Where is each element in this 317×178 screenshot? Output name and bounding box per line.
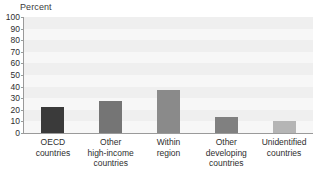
y-tick-label: 70	[11, 48, 20, 56]
bar	[215, 117, 238, 133]
y-tick-label: 40	[11, 83, 20, 91]
x-tick-label: Unidentified countries	[255, 137, 313, 158]
y-tick-label: 80	[11, 36, 20, 44]
y-tick-label: 30	[11, 94, 20, 102]
chart-title: Percent	[20, 2, 52, 13]
y-tick-label: 20	[11, 106, 20, 114]
bar	[273, 121, 296, 133]
gridline-band	[24, 17, 313, 29]
gridline-band	[24, 63, 313, 75]
y-tick-label: 60	[11, 59, 20, 67]
x-axis-line	[24, 133, 313, 134]
gridline-band	[24, 40, 313, 52]
y-tick-label: 100	[6, 13, 20, 21]
y-axis-line	[23, 17, 24, 134]
y-tick-label: 10	[11, 117, 20, 125]
bar	[99, 101, 122, 133]
bar	[41, 107, 64, 133]
x-tick-label: Within region	[140, 137, 198, 158]
x-tick-label: OECD countries	[24, 137, 82, 158]
y-axis: 0102030405060708090100	[0, 17, 22, 133]
x-tick-label: Other high-income countries	[82, 137, 140, 169]
x-tick-label: Other developing countries	[197, 137, 255, 169]
bar	[157, 90, 180, 133]
y-tick-label: 90	[11, 25, 20, 33]
bar-chart: Percent 0102030405060708090100 OECD coun…	[0, 0, 317, 178]
y-tick-label: 0	[15, 129, 20, 137]
y-tick-label: 50	[11, 71, 20, 79]
